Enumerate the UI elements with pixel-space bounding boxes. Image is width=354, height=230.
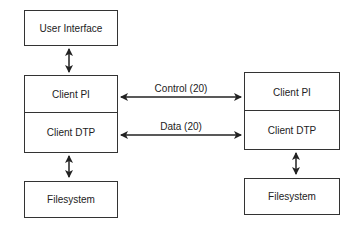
- user-interface-box: User Interface: [24, 10, 118, 46]
- left-client-dtp-label: Client DTP: [47, 127, 95, 138]
- left-filesystem-label: Filesystem: [47, 194, 95, 205]
- left-client-dtp-box: Client DTP: [24, 112, 118, 153]
- control-connection-label: Control (20): [121, 83, 241, 94]
- left-client-pi-label: Client PI: [52, 89, 90, 100]
- right-client-dtp-box: Client DTP: [244, 110, 340, 150]
- right-client-pi-box: Client PI: [244, 72, 340, 112]
- right-filesystem-box: Filesystem: [244, 178, 340, 215]
- right-client-dtp-label: Client DTP: [268, 125, 316, 136]
- left-client-pi-box: Client PI: [24, 75, 118, 114]
- right-client-pi-label: Client PI: [273, 87, 311, 98]
- user-interface-label: User Interface: [40, 23, 103, 34]
- data-connection-label: Data (20): [121, 121, 241, 132]
- right-filesystem-label: Filesystem: [268, 191, 316, 202]
- left-filesystem-box: Filesystem: [24, 181, 118, 218]
